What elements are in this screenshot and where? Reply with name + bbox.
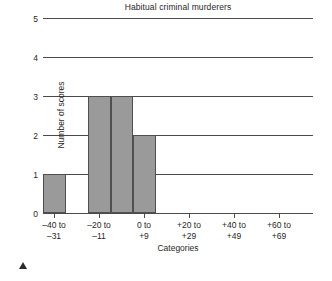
bar-bin-3	[88, 96, 111, 213]
x-tick-4	[189, 214, 190, 218]
bar-bin-4	[111, 96, 134, 213]
plot-area: Number of scores	[43, 18, 313, 213]
gridline-4	[43, 57, 313, 58]
chart-title: Habitual criminal murderers	[43, 2, 313, 12]
gridline-5	[43, 18, 313, 19]
x-tick-6	[279, 214, 280, 218]
x-tick-3	[144, 214, 145, 218]
y-tick-label-3: 3	[10, 92, 38, 102]
gridline-2	[43, 135, 313, 136]
bar-bin-5	[133, 135, 156, 213]
y-tick-label-5: 5	[10, 14, 38, 24]
y-tick-label-0: 0	[10, 209, 38, 219]
y-tick-label-1: 1	[10, 170, 38, 180]
chart-figure: Habitual criminal murderers Number of sc…	[0, 0, 332, 281]
y-axis-title: Number of scores	[56, 50, 66, 180]
y-tick-label-4: 4	[10, 53, 38, 63]
triangle-up-icon	[19, 262, 27, 269]
y-tick-label-2: 2	[10, 131, 38, 141]
x-axis-baseline	[43, 213, 313, 214]
x-tick-5	[234, 214, 235, 218]
gridline-3	[43, 96, 313, 97]
x-tick-label-6-line1: +60 to	[251, 220, 307, 231]
x-tick-2	[99, 214, 100, 218]
x-tick-1	[54, 214, 55, 218]
gridline-1	[43, 174, 313, 175]
x-axis-title: Categories	[43, 243, 313, 253]
x-tick-label-6-line2: +69	[251, 231, 307, 242]
x-tick-label-6: +60 to +69	[251, 220, 307, 241]
y-axis-spine	[43, 174, 44, 213]
